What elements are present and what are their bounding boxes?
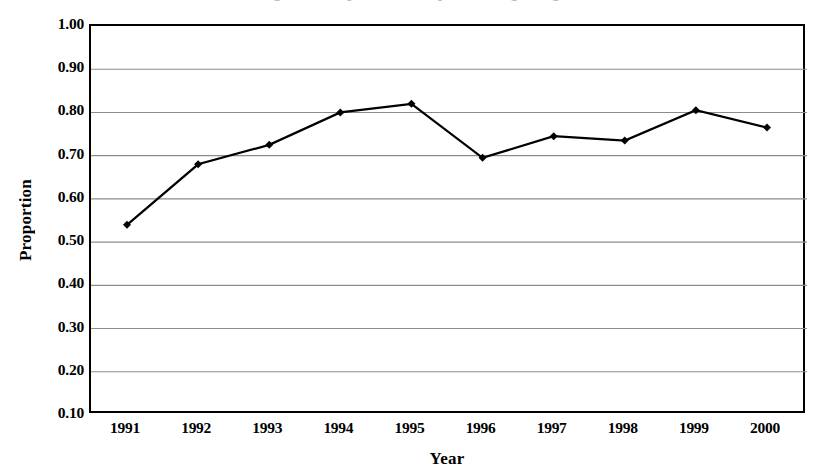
data-point-marker [692,106,700,114]
y-axis-tick-label: 0.50 [38,232,84,248]
data-line [127,104,767,225]
x-axis-tick-label: 1995 [374,418,444,438]
y-axis-tick-label: 0.40 [38,275,84,291]
gridlines [91,69,807,372]
x-axis-tick-label: 1992 [161,418,231,438]
y-axis-tick-label: 0.90 [38,59,84,75]
x-axis-tick-label: 2000 [730,418,800,438]
data-point-marker [550,132,558,140]
line-chart-svg [91,26,807,415]
y-axis-tick-label: 0.60 [38,189,84,205]
x-axis-tick-label: 1997 [517,418,587,438]
data-point-marker [265,141,273,149]
x-axis-tick-label: 1994 [303,418,373,438]
x-axis-tick-label: 1996 [446,418,516,438]
cut-off-title-text: Figure 1. Proportion of respondents agre… [259,0,559,1]
data-point-marker [763,124,771,132]
y-axis-tick-label: 1.00 [38,16,84,32]
y-axis-tick-labels: 1.000.900.800.700.600.500.400.300.200.10 [32,0,84,476]
data-point-marker [621,137,629,145]
y-axis-tick-label: 0.10 [38,405,84,421]
chart-figure: Figure 1. Proportion of respondents agre… [0,0,819,476]
x-axis-tick-label: 1999 [659,418,729,438]
x-axis-tick-label: 1991 [90,418,160,438]
cut-off-title: Figure 1. Proportion of respondents agre… [0,0,819,9]
y-axis-tick-label: 0.80 [38,102,84,118]
y-axis-tick-label: 0.30 [38,319,84,335]
y-axis-tick-label: 0.20 [38,362,84,378]
plot-area [89,24,805,413]
x-axis-tick-labels: 1991199219931994199519961997199819992000 [89,418,805,442]
x-axis-label: Year [89,448,805,470]
x-axis-tick-label: 1998 [588,418,658,438]
x-axis-tick-label: 1993 [232,418,302,438]
y-axis-tick-label: 0.70 [38,146,84,162]
data-point-marker [336,108,344,116]
